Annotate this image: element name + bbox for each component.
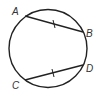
label-a: A: [11, 6, 19, 17]
geometry-diagram: A B C D: [0, 0, 97, 95]
circle: [9, 10, 87, 88]
label-d: D: [86, 63, 93, 74]
label-b: B: [86, 28, 93, 39]
label-c: C: [12, 80, 20, 91]
